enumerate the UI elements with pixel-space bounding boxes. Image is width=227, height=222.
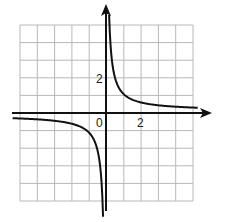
graph: 0 2 2 — [0, 0, 227, 222]
curve-right-branch — [109, 15, 198, 108]
x-axis — [12, 108, 212, 118]
x-tick-label: 2 — [137, 116, 144, 130]
y-tick-label: 2 — [96, 72, 103, 86]
origin-label: 0 — [96, 116, 103, 130]
